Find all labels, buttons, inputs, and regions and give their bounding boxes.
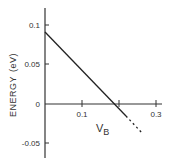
y-axis-label: ENERGY(eV) [8, 53, 18, 117]
y-tick-label: -0.05 [22, 139, 41, 148]
y-tick-label: 0 [36, 100, 41, 109]
energy-line-extrapolation [126, 116, 143, 134]
x-tick-label: 0.3 [150, 110, 162, 119]
y-tick-label: 0.05 [24, 60, 40, 69]
y-tick-label: 0.1 [29, 21, 41, 30]
svg-text:ENERGY(eV): ENERGY(eV) [8, 53, 18, 117]
x-tick-label: 0.1 [76, 110, 88, 119]
x-axis-label: VB [96, 122, 109, 137]
energy-vs-vb-chart: 0.1 0.05 0 -0.05 0.1 0.3 ENERGY(eV) VB [0, 0, 172, 166]
